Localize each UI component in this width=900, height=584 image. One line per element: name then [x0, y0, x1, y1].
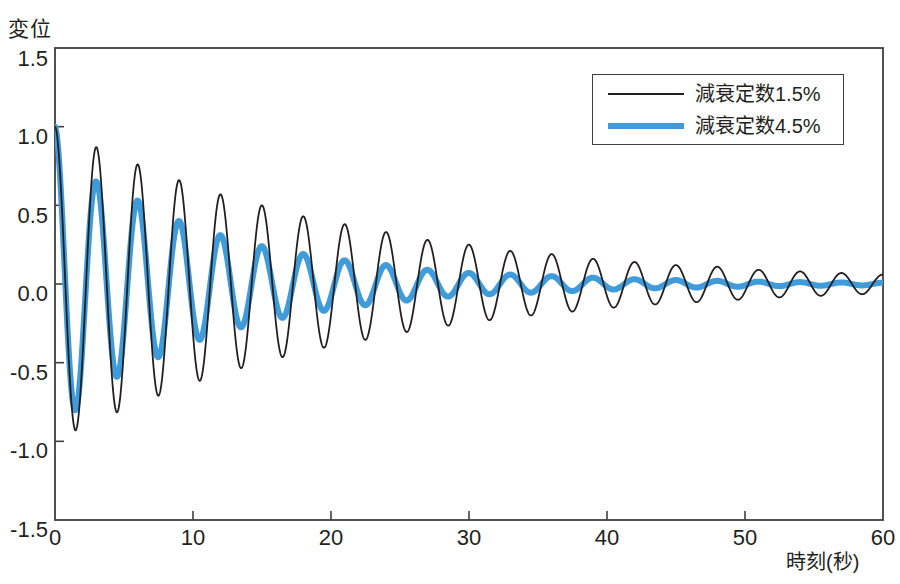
- y-tick-label-2: 1.0: [0, 126, 48, 148]
- x-tick-label-5: 40: [577, 527, 637, 549]
- y-tick-label-6: -1.0: [0, 440, 48, 462]
- x-tick-label-3: 20: [301, 527, 361, 549]
- legend-label-damping-1-5: 減衰定数1.5%: [695, 84, 821, 104]
- x-tick-label-7: 60: [853, 527, 900, 549]
- y-tick-label-4: 0.0: [0, 283, 48, 305]
- x-tick-label-6: 50: [715, 527, 775, 549]
- x-tick-label-1: 0: [25, 527, 85, 549]
- chart-figure: 変位 時刻(秒) 1.5 1.0 0.5 0.0 -0.5 -1.0 -1.5 …: [0, 0, 900, 584]
- legend-line-swatch-black-icon: [607, 93, 685, 96]
- y-tick-label-1: 1.5: [0, 48, 48, 70]
- chart-legend: 減衰定数1.5% 減衰定数4.5%: [592, 74, 844, 145]
- y-tick-label-5: -0.5: [0, 362, 48, 384]
- x-axis-label: 時刻(秒): [786, 552, 859, 572]
- y-tick-label-3: 0.5: [0, 205, 48, 227]
- x-tick-label-2: 10: [163, 527, 223, 549]
- legend-entry-damping-4-5: 減衰定数4.5%: [593, 109, 843, 143]
- legend-line-swatch-blue-icon: [607, 123, 685, 129]
- x-tick-label-4: 30: [439, 527, 499, 549]
- legend-entry-damping-1-5: 減衰定数1.5%: [593, 77, 843, 111]
- y-axis-label: 変位: [8, 18, 51, 39]
- legend-label-damping-4-5: 減衰定数4.5%: [695, 116, 821, 136]
